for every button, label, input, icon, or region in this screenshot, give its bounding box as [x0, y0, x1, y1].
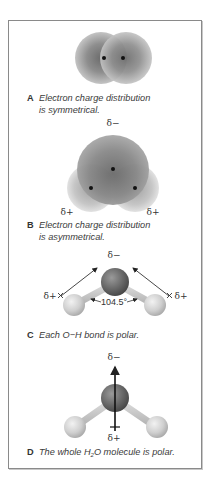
bond-angle-label: 104.5° [101, 297, 127, 307]
panel-letter-d: D [27, 446, 34, 458]
nucleus-icon [102, 56, 106, 60]
delta-minus-label-d: δ− [108, 352, 121, 362]
h2o-electron-cloud [67, 135, 159, 212]
panel-letter-a: A [27, 92, 34, 104]
delta-plus-right-label-c: δ+ [175, 291, 188, 301]
panel-letter-b: B [27, 219, 34, 231]
caption-a-line2: is symmetrical. [39, 104, 100, 116]
angle-arrow-right-icon [127, 299, 137, 302]
caption-a-line1: Electron charge distribution [39, 92, 150, 104]
panel-letter-c: C [27, 329, 34, 341]
angle-arrow-left-icon [91, 299, 101, 302]
h2o-ball-and-stick-net-dipole [64, 367, 168, 438]
delta-plus-left-label-c: δ+ [44, 291, 57, 301]
dipole-arrow-right-icon [133, 268, 169, 296]
caption-d-post: O molecule is polar. [94, 447, 175, 457]
nucleus-icon [121, 56, 125, 60]
delta-plus-right-label-b: δ+ [147, 207, 160, 217]
caption-b-line1: Electron charge distribution [39, 219, 150, 231]
caption-d-line1: The whole H2O molecule is polar. [39, 446, 175, 461]
delta-plus-left-label-b: δ+ [61, 207, 74, 217]
nucleus-icon [133, 186, 137, 190]
delta-minus-label-b: δ− [107, 118, 120, 128]
delta-plus-label-d: δ+ [108, 433, 121, 443]
h2o-ball-and-stick-bond-dipoles [58, 268, 172, 316]
caption-d-pre: The whole H [39, 447, 91, 457]
caption-b-line2: is asymmetrical. [39, 231, 105, 243]
caption-c-line1: Each O−H bond is polar. [39, 329, 139, 341]
nucleus-icon [89, 186, 93, 190]
delta-minus-label-c: δ− [108, 250, 121, 260]
nucleus-icon [111, 167, 115, 171]
h2-electron-cloud [75, 32, 152, 84]
